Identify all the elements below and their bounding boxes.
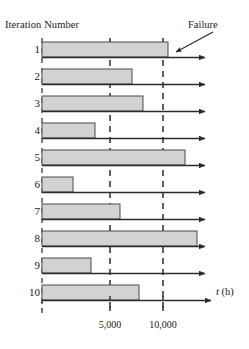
bar-row-5	[42, 150, 205, 166]
bar-row-7	[42, 204, 205, 220]
iteration-failure-chart: Iteration Number Failure 1 2 3 4 5 6 7 8…	[0, 0, 249, 349]
bar-row-2	[42, 69, 205, 85]
bar-9	[42, 258, 91, 273]
bar-10	[42, 285, 139, 300]
bar-2	[42, 69, 132, 84]
bar-1	[42, 42, 168, 57]
bar-row-4	[42, 123, 205, 139]
bar-8	[42, 231, 197, 246]
chart-canvas	[0, 0, 249, 349]
bar-7	[42, 204, 120, 219]
bar-3	[42, 96, 143, 111]
bar-5	[42, 150, 185, 165]
bar-row-9	[42, 258, 205, 274]
bar-row-8	[42, 231, 205, 247]
bar-row-10	[42, 285, 211, 301]
bar-row-3	[42, 96, 205, 112]
bar-4	[42, 123, 95, 138]
bar-6	[42, 177, 73, 192]
bar-row-6	[42, 177, 205, 193]
failure-arrow	[176, 32, 213, 52]
